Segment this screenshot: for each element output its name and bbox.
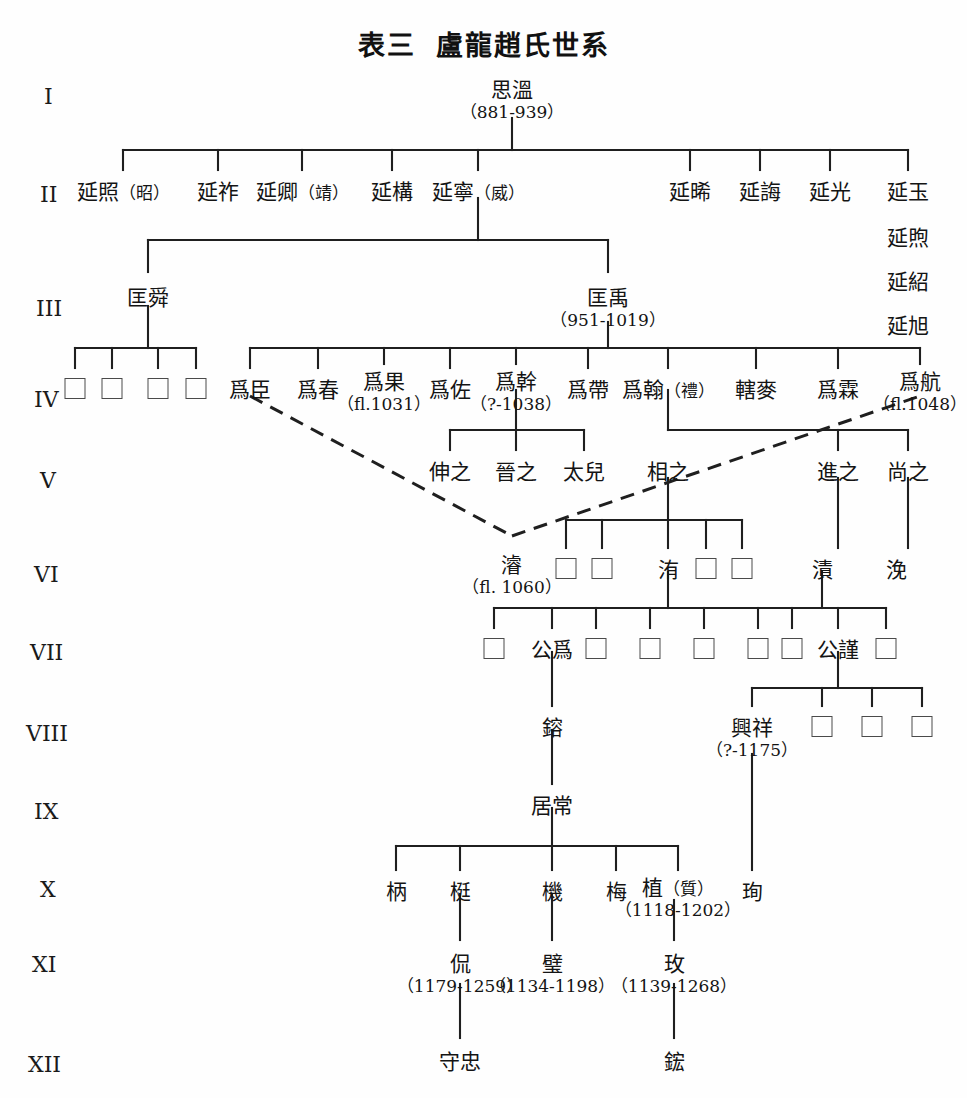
person-name: 鋐 bbox=[664, 1052, 685, 1073]
generation-label-iii: III bbox=[36, 296, 62, 321]
unnamed-person-box bbox=[862, 716, 883, 737]
person-name-text: 爲翰 bbox=[622, 378, 664, 402]
person-name: 柄 bbox=[386, 882, 407, 903]
person-name-text: 公謹 bbox=[817, 638, 859, 662]
person-name: 爲佐 bbox=[429, 380, 471, 401]
person-dates: （1134-1198） bbox=[489, 978, 615, 995]
unnamed-person-box bbox=[484, 638, 505, 659]
person-name-text: 柄 bbox=[386, 880, 407, 904]
person-name: 思溫 bbox=[460, 80, 565, 101]
generation-label-iv: IV bbox=[34, 387, 59, 412]
unnamed-person-box bbox=[782, 638, 803, 659]
person-name-text: 機 bbox=[542, 880, 563, 904]
person-node: 延紹 bbox=[887, 272, 929, 293]
unnamed-person-box bbox=[732, 558, 753, 579]
unnamed-person-box bbox=[696, 558, 717, 579]
connector-line-layer bbox=[0, 0, 967, 1098]
generation-label-viii: VIII bbox=[26, 721, 68, 746]
person-node: 爲佐 bbox=[429, 380, 471, 401]
person-name-text: 延構 bbox=[371, 180, 413, 204]
person-name: 梃 bbox=[450, 882, 471, 903]
person-name: 公謹 bbox=[817, 640, 859, 661]
generation-label-xi: XI bbox=[32, 952, 56, 977]
person-name-text: 爲幹 bbox=[495, 370, 537, 394]
person-name-text: 璧 bbox=[542, 952, 563, 976]
person-name-text: 相之 bbox=[647, 460, 689, 484]
person-name-text: 延旭 bbox=[887, 314, 929, 338]
person-node: 爲翰（禮） bbox=[622, 380, 715, 401]
person-node: 延煦 bbox=[887, 228, 929, 249]
generation-label-vi: VI bbox=[34, 562, 59, 587]
person-name: 延寧（威） bbox=[432, 182, 525, 203]
person-name: 浼 bbox=[886, 560, 907, 581]
person-name-text: 伸之 bbox=[429, 460, 471, 484]
person-node: 延誨 bbox=[739, 182, 781, 203]
person-name: 尚之 bbox=[887, 462, 929, 483]
unnamed-person-box bbox=[148, 378, 169, 399]
unnamed-person-box bbox=[65, 378, 86, 399]
person-name-text: 爲霖 bbox=[817, 378, 859, 402]
person-node: 爲帶 bbox=[567, 380, 609, 401]
person-node: 機 bbox=[542, 882, 563, 903]
unnamed-person-box bbox=[186, 378, 207, 399]
generation-label-x: X bbox=[40, 877, 56, 902]
person-node: 延寧（威） bbox=[432, 182, 525, 203]
person-node: 爲霖 bbox=[817, 380, 859, 401]
person-node: 延光 bbox=[809, 182, 851, 203]
person-name-text: 守忠 bbox=[439, 1050, 481, 1074]
person-node: 伸之 bbox=[429, 462, 471, 483]
generation-label-ix: IX bbox=[34, 799, 58, 824]
unnamed-person-box bbox=[876, 638, 897, 659]
unnamed-person-box bbox=[556, 558, 577, 579]
person-name-text: 延紹 bbox=[887, 270, 929, 294]
person-name-text: 太兒 bbox=[563, 460, 605, 484]
person-name-text: 爲春 bbox=[297, 378, 339, 402]
person-node: 延祚 bbox=[197, 182, 239, 203]
person-name: 爲霖 bbox=[817, 380, 859, 401]
person-name-text: 匡禹 bbox=[587, 286, 629, 310]
person-name: 延紹 bbox=[887, 272, 929, 293]
person-name-text: 延卿 bbox=[256, 180, 298, 204]
person-name: 守忠 bbox=[439, 1052, 481, 1073]
genealogy-chart: 表三盧龍趙氏世系 IIIIIIIVVVIVIIVIIIIXXXIXII 思溫（8… bbox=[0, 0, 967, 1098]
person-node: 延旭 bbox=[887, 316, 929, 337]
person-name-text: 延照 bbox=[77, 180, 119, 204]
person-node: 爲臣 bbox=[229, 380, 271, 401]
person-name: 爲幹 bbox=[470, 372, 562, 393]
person-name-text: 尚之 bbox=[887, 460, 929, 484]
person-dates: （1139-1268） bbox=[611, 978, 737, 995]
person-node: 公謹 bbox=[817, 640, 859, 661]
person-name: 延祚 bbox=[197, 182, 239, 203]
person-name-text: 思溫 bbox=[491, 78, 533, 102]
person-node: 鎔 bbox=[542, 718, 563, 739]
person-node: 思溫（881-939） bbox=[460, 80, 565, 121]
person-dates: （fl.1048） bbox=[873, 396, 967, 413]
person-name-text: 興祥 bbox=[731, 716, 773, 740]
person-name: 轄麥 bbox=[735, 380, 777, 401]
person-alt-name: （靖） bbox=[298, 183, 349, 203]
person-node: 洧 bbox=[658, 560, 679, 581]
unnamed-person-box bbox=[640, 638, 661, 659]
page-title: 表三盧龍趙氏世系 bbox=[0, 24, 967, 63]
person-name: 太兒 bbox=[563, 462, 605, 483]
person-name-text: 延祚 bbox=[197, 180, 239, 204]
person-node: 匡舜 bbox=[127, 288, 169, 309]
generation-label-v: V bbox=[40, 468, 56, 493]
person-node: 守忠 bbox=[439, 1052, 481, 1073]
person-name: 爲翰（禮） bbox=[622, 380, 715, 401]
person-node: 柄 bbox=[386, 882, 407, 903]
person-node: 漬 bbox=[812, 560, 833, 581]
unnamed-person-box bbox=[912, 716, 933, 737]
person-name-text: 玫 bbox=[664, 952, 685, 976]
person-node: 延卿（靖） bbox=[256, 182, 349, 203]
person-node: 進之 bbox=[817, 462, 859, 483]
person-dates: （fl. 1060） bbox=[462, 579, 561, 596]
unnamed-person-box bbox=[694, 638, 715, 659]
person-name-text: 爲果 bbox=[363, 370, 405, 394]
generation-label-xii: XII bbox=[28, 1052, 61, 1077]
person-node: 延照（昭） bbox=[77, 182, 170, 203]
person-node: 延晞 bbox=[669, 182, 711, 203]
person-name: 珣 bbox=[742, 882, 763, 903]
person-name-text: 延煦 bbox=[887, 226, 929, 250]
person-node: 延構 bbox=[371, 182, 413, 203]
